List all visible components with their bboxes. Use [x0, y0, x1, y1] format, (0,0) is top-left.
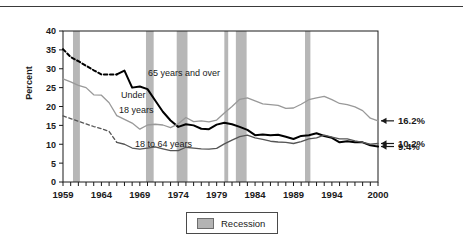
recession-band-4: [224, 31, 228, 182]
y-tick-label-25: 25: [46, 83, 56, 93]
series-annotations-group: 65 years and overUnder18 years18 to 64 y…: [119, 68, 220, 149]
x-tick-label-2000: 2000: [367, 189, 388, 200]
x-tick-label-1989: 1989: [283, 189, 304, 200]
plot-border: [63, 31, 378, 182]
series-annotation-2: 18 years: [119, 105, 154, 115]
y-axis-ticks: 0510152025303540: [46, 26, 63, 187]
series-annotation-3: 18 to 64 years: [135, 139, 193, 149]
end-label-arrow-head-0: [381, 118, 387, 124]
x-tick-label-1969: 1969: [129, 189, 150, 200]
x-tick-label-1974: 1974: [168, 189, 190, 200]
recession-bands-group: [73, 31, 310, 182]
y-tick-label-10: 10: [46, 140, 56, 150]
data-series-group: [63, 49, 378, 151]
recession-band-1: [73, 31, 80, 182]
legend-box: Recession: [186, 212, 278, 234]
x-tick-label-1979: 1979: [206, 189, 227, 200]
y-tick-label-20: 20: [46, 102, 56, 112]
end-value-label-9.4: 9.4%: [398, 141, 420, 152]
y-tick-label-30: 30: [46, 64, 56, 74]
end-value-label-16.2: 16.2%: [398, 115, 425, 126]
poverty-rate-chart-figure: Percent 0510152025303540 195919641969197…: [0, 0, 463, 251]
series-annotation-1: Under: [121, 90, 146, 100]
y-tick-label-5: 5: [51, 159, 56, 169]
series-annotation-0: 65 years and over: [148, 68, 220, 78]
x-axis-ticks: 195919641969197419791984198919942000: [52, 182, 388, 200]
legend-label-recession: Recession: [221, 218, 265, 229]
y-tick-label-35: 35: [46, 45, 56, 55]
plot-frame: [63, 31, 378, 182]
series-line-1: [63, 79, 378, 129]
recession-swatch: [197, 218, 214, 229]
recession-band-3: [177, 31, 188, 182]
y-tick-label-40: 40: [46, 26, 56, 36]
recession-band-6: [305, 31, 310, 182]
x-tick-label-1994: 1994: [321, 189, 343, 200]
x-tick-label-1964: 1964: [91, 189, 113, 200]
end-value-labels-group: 16.2%10.2%9.4%: [381, 115, 425, 152]
recession-band-5: [236, 31, 247, 182]
x-tick-label-1984: 1984: [245, 189, 267, 200]
y-tick-label-0: 0: [51, 177, 56, 187]
y-tick-label-15: 15: [46, 121, 56, 131]
series-line-dashed-2: [63, 116, 117, 142]
series-line-dashed-0: [63, 49, 117, 74]
x-tick-label-1959: 1959: [52, 189, 73, 200]
